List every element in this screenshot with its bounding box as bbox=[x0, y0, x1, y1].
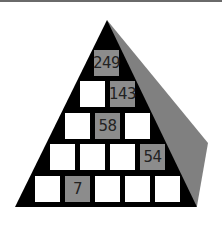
cell-r4-c4[interactable] bbox=[155, 176, 180, 202]
cell-r2-c2[interactable] bbox=[125, 113, 150, 139]
cell-r4-c1: 7 bbox=[65, 176, 90, 202]
cell-r4-c3[interactable] bbox=[125, 176, 150, 202]
cell-r0-c0: 249 bbox=[94, 50, 119, 76]
cell-r3-c0[interactable] bbox=[50, 144, 75, 170]
cell-r1-c0[interactable] bbox=[80, 81, 105, 107]
cell-r4-c2[interactable] bbox=[95, 176, 120, 202]
cell-r3-c3: 54 bbox=[140, 144, 165, 170]
cell-r3-c1[interactable] bbox=[80, 144, 105, 170]
cell-r3-c2[interactable] bbox=[110, 144, 135, 170]
cell-r2-c0[interactable] bbox=[65, 113, 90, 139]
cell-r1-c1: 143 bbox=[110, 81, 135, 107]
cell-r4-c0[interactable] bbox=[35, 176, 60, 202]
cell-r2-c1: 58 bbox=[95, 113, 120, 139]
